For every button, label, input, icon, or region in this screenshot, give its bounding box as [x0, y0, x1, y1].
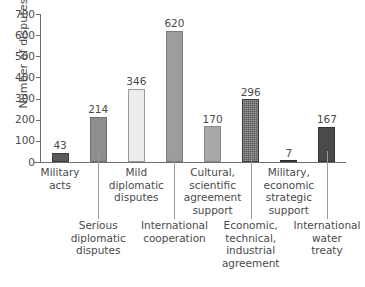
bar-group: 346 [128, 14, 145, 162]
bar[interactable] [166, 31, 183, 162]
category-label-line: agreement [175, 191, 251, 204]
category-label-line: industrial [213, 244, 289, 257]
category-label-line: Serious [60, 219, 136, 232]
category-label: Military,economicstrategicsupport [251, 166, 327, 216]
category-label-line: disputes [60, 244, 136, 257]
category-label-line: Economic, [213, 219, 289, 232]
y-tick-label: 100 [0, 135, 35, 146]
category-separator-stub [327, 152, 328, 162]
category-label: Milddiplomaticdisputes [98, 166, 174, 204]
category-label-line: support [175, 204, 251, 217]
bar-value-label: 620 [164, 18, 184, 29]
bar-value-label: 7 [285, 148, 292, 159]
category-label-line: International [289, 219, 365, 232]
category-label-line: acts [22, 179, 98, 192]
y-tick-mark [36, 99, 40, 100]
plot-area: 432143466201702967167 [41, 14, 346, 162]
bar[interactable] [280, 160, 297, 162]
y-tick-label: 200 [0, 114, 35, 125]
bar-value-label: 296 [241, 87, 261, 98]
category-label-line: support [251, 204, 327, 217]
category-label: Internationalwatertreaty [289, 219, 365, 257]
bar-value-label: 214 [88, 104, 108, 115]
category-label-line: strategic [251, 191, 327, 204]
category-label: Militaryacts [22, 166, 98, 191]
y-tick-label: 300 [0, 93, 35, 104]
y-tick-mark [36, 14, 40, 15]
category-label: Internationalcooperation [136, 219, 212, 244]
category-label-line: Cultural, [175, 166, 251, 179]
bar-value-label: 167 [317, 114, 337, 125]
category-separator-stub [174, 152, 175, 162]
y-axis-ticks: 7006005004003002001000 [0, 0, 35, 287]
x-axis-line [34, 162, 346, 163]
category-label-line: water [289, 232, 365, 245]
category-label: Economic,technical,industrialagreement [213, 219, 289, 269]
y-tick-mark [36, 77, 40, 78]
bar-value-label: 346 [126, 76, 146, 87]
y-tick-mark [36, 162, 40, 163]
category-label-line: diplomatic [60, 232, 136, 245]
category-label-line: economic [251, 179, 327, 192]
y-tick-mark [36, 35, 40, 36]
y-tick-mark [36, 141, 40, 142]
category-label-line: Military, [251, 166, 327, 179]
bar-value-label: 170 [203, 114, 223, 125]
y-tick-label: 600 [0, 30, 35, 41]
category-label: Cultural,scientificagreementsupport [175, 166, 251, 216]
category-label-line: agreement [213, 257, 289, 270]
y-tick-label: 500 [0, 51, 35, 62]
bar-value-label: 43 [53, 140, 66, 151]
category-separator-stub [98, 152, 99, 162]
bar[interactable] [128, 89, 145, 162]
category-label-line: Military [22, 166, 98, 179]
bar[interactable] [204, 126, 221, 162]
bar-group: 170 [204, 14, 221, 162]
category-label-line: cooperation [136, 232, 212, 245]
category-label: Seriousdiplomaticdisputes [60, 219, 136, 257]
category-label-line: disputes [98, 191, 174, 204]
category-label-line: scientific [175, 179, 251, 192]
y-tick-label: 400 [0, 72, 35, 83]
bar-group: 620 [166, 14, 183, 162]
category-label-line: International [136, 219, 212, 232]
bar[interactable] [52, 153, 69, 162]
category-separator-stub [251, 152, 252, 162]
category-label-line: diplomatic [98, 179, 174, 192]
bar-group: 296 [242, 14, 259, 162]
bar-group: 214 [90, 14, 107, 162]
y-tick-mark [36, 120, 40, 121]
bar-group: 7 [280, 14, 297, 162]
y-tick-mark [36, 56, 40, 57]
category-label-line: treaty [289, 244, 365, 257]
y-tick-label: 700 [0, 9, 35, 20]
bar-group: 43 [52, 14, 69, 162]
category-label-line: Mild [98, 166, 174, 179]
category-label-line: technical, [213, 232, 289, 245]
bar-group: 167 [318, 14, 335, 162]
